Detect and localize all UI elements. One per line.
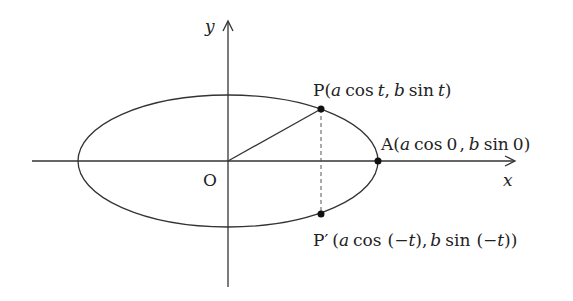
- ellipse-diagram: y x O P(acost,bsint) A(acos0,bsin0) P′(a…: [0, 0, 573, 301]
- label-Pprime: P′(acos(−t),bsin(−t)): [313, 230, 517, 250]
- point-P: [318, 106, 325, 113]
- label-P: P(acost,bsint): [313, 80, 451, 100]
- segment-OP: [228, 109, 321, 161]
- label-A: A(acos0,bsin0): [380, 134, 530, 154]
- x-axis-label: x: [503, 170, 513, 190]
- point-Pprime: [318, 211, 325, 218]
- origin-label: O: [203, 170, 217, 190]
- y-axis-label: y: [204, 16, 215, 36]
- point-A: [375, 158, 382, 165]
